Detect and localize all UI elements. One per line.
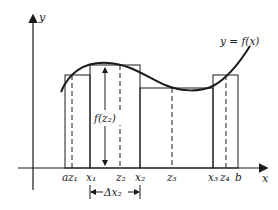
rectangle-4	[213, 75, 238, 168]
height-label: f(z₂)	[93, 112, 116, 124]
curve-label: y = f(x)	[219, 35, 259, 47]
tick-label-x3: x₃	[208, 171, 218, 183]
tick-label-b: b	[235, 171, 242, 183]
tick-label-z3: z₃	[166, 171, 177, 183]
y-axis-label: y	[38, 11, 46, 24]
rectangle-3	[140, 88, 213, 168]
tick-label-x1: x₁	[86, 171, 96, 183]
tick-labels: a z₁ x₁ z₂ x₂ z₃ x₃ z₄ b	[62, 171, 242, 183]
tick-label-z2: z₂	[115, 171, 126, 183]
rectangle-1	[65, 75, 90, 168]
riemann-sum-diagram: y x y = f(x) f(z₂) a z₁ x₁ z₂ x₂ z₃ x₃ z…	[0, 0, 278, 210]
delta-x2-label: Δx₂	[103, 186, 122, 198]
x-axis-label: x	[262, 172, 269, 185]
tick-label-x2: x₂	[135, 171, 145, 183]
riemann-rectangles	[65, 65, 238, 168]
function-curve	[61, 46, 250, 92]
tick-label-z4: z₄	[219, 171, 230, 183]
tick-label-z1: z₁	[67, 171, 78, 183]
